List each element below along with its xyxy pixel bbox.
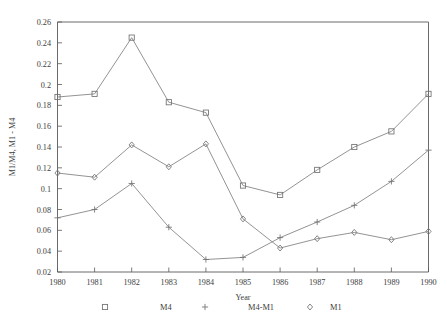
y-tick-label: 0.14: [37, 143, 51, 152]
legend-label: M1: [330, 303, 342, 312]
x-axis-title: Year: [235, 293, 250, 302]
series-polyline: [58, 144, 429, 248]
x-tick-label: 1981: [86, 278, 102, 287]
y-tick-label: 0.2: [41, 81, 51, 90]
legend-label: M4: [160, 303, 172, 312]
x-tick-label: 1985: [235, 278, 251, 287]
series-polyline: [58, 150, 429, 259]
y-tick-label: 0.22: [37, 60, 51, 69]
y-axis-ticks: 0.020.040.060.080.10.120.140.160.180.20.…: [37, 18, 62, 277]
x-tick-label: 1989: [383, 278, 399, 287]
x-tick-label: 1987: [309, 278, 325, 287]
y-tick-label: 0.1: [41, 185, 51, 194]
marker-plus: [314, 219, 320, 225]
marker-plus: [240, 254, 246, 260]
chart-series: [54, 35, 431, 263]
y-tick-label: 0.06: [37, 226, 51, 235]
x-tick-label: 1982: [124, 278, 140, 287]
marker-plus: [202, 304, 208, 310]
y-tick-label: 0.04: [37, 247, 51, 256]
y-tick-label: 0.12: [37, 164, 51, 173]
y-tick-label: 0.18: [37, 101, 51, 110]
y-tick-label: 0.16: [37, 122, 51, 131]
marker-plus: [54, 215, 60, 221]
series-polyline: [58, 38, 429, 195]
x-tick-label: 1990: [420, 278, 436, 287]
x-tick-label: 1984: [198, 278, 214, 287]
series-m4: [55, 35, 431, 198]
series-m1: [55, 141, 431, 251]
marker-diamond: [307, 304, 312, 310]
y-tick-label: 0.24: [37, 39, 51, 48]
x-tick-label: 1983: [161, 278, 177, 287]
legend-item-m4: M4: [102, 303, 172, 312]
marker-square: [102, 304, 107, 309]
marker-plus: [277, 235, 283, 241]
y-tick-label: 0.02: [37, 268, 51, 277]
x-tick-label: 1988: [346, 278, 362, 287]
marker-plus: [351, 202, 357, 208]
y-tick-label: 0.26: [37, 18, 51, 27]
y-tick-label: 0.08: [37, 206, 51, 215]
marker-plus: [92, 206, 98, 212]
legend-item-m4-m1: M4-M1: [202, 303, 274, 312]
series-m4-m1: [54, 147, 431, 263]
y-axis-title: M1/M4, M1 - M4: [8, 118, 17, 177]
chart-legend: M4M4-M1M1: [102, 303, 341, 312]
x-tick-label: 1980: [49, 278, 65, 287]
chart-axes: [58, 22, 429, 272]
x-axis-ticks: 1980198119821983198419851986198719881989…: [49, 268, 436, 288]
line-chart: 0.020.040.060.080.10.120.140.160.180.20.…: [0, 0, 447, 322]
x-tick-label: 1986: [272, 278, 288, 287]
legend-item-m1: M1: [307, 303, 341, 312]
legend-label: M4-M1: [248, 303, 274, 312]
chart-container: 0.020.040.060.080.10.120.140.160.180.20.…: [0, 0, 447, 322]
